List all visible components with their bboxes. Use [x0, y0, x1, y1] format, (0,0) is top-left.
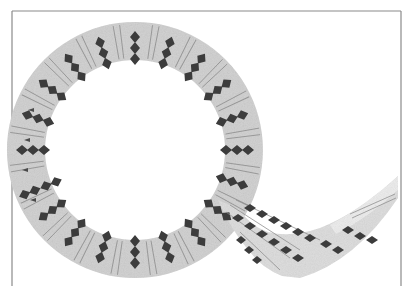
- decorated-band-photo: [0, 0, 409, 286]
